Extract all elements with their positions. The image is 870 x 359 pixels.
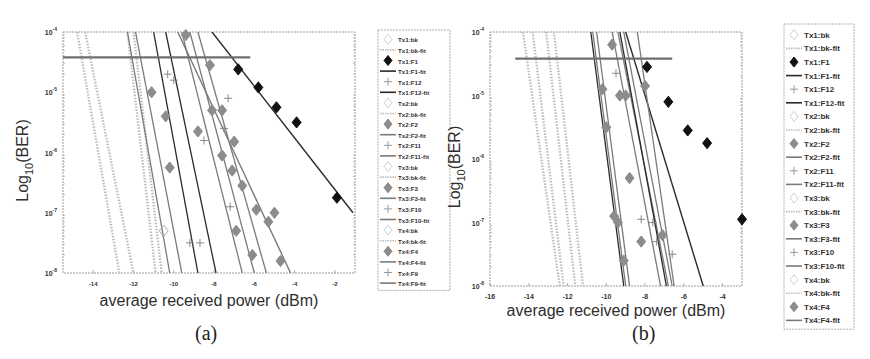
back-to-back-fit-line [533, 32, 564, 286]
legend-entry-label: Tx3:F3-fit [398, 195, 426, 202]
legend-entry-label: Tx3:F10 [398, 206, 422, 213]
series-layer [77, 32, 353, 273]
legend-entry-label: Tx1:bk-fit [398, 47, 426, 54]
caption-a: (a) [195, 322, 217, 345]
data-marker-gray-diamond [228, 165, 237, 176]
legend-entry-label: Tx3:F10 [804, 248, 835, 257]
legend-entry-label: Tx1:F12-fit [804, 99, 845, 108]
legend-entry-label: Tx3:F3 [398, 185, 419, 192]
data-marker-black-diamond [738, 214, 747, 225]
legend-entry-label: Tx2:F11 [804, 167, 834, 176]
plus-marker [224, 94, 232, 102]
data-marker-black-diamond [643, 61, 652, 72]
fit-line [593, 32, 626, 286]
back-to-back-fit-line [127, 32, 155, 273]
legend-entry-label: Tx2:bk [398, 100, 419, 107]
plus-marker [612, 69, 620, 77]
data-marker-gray-diamond [625, 172, 634, 183]
legend-entry-label: Tx1:F1-fit [398, 68, 426, 75]
data-marker-gray-diamond [248, 249, 257, 260]
y-axis-label: Log10(BER) [446, 126, 467, 209]
legend-entry-label: Tx2:bk [804, 112, 830, 121]
data-marker-gray-diamond [193, 126, 202, 137]
back-to-back-fit-line [523, 32, 560, 286]
y-tick-label: 10-7 [45, 207, 57, 217]
x-axis-label: average received power (dBm) [100, 292, 319, 309]
data-marker-black-diamond [664, 96, 673, 107]
plus-marker [637, 215, 645, 223]
x-tick-label: -8 [642, 293, 648, 300]
x-tick-label: -10 [169, 281, 178, 287]
x-tick-label: -14 [89, 281, 98, 287]
legend-entry-label: Tx4:F9 [398, 270, 419, 277]
legend-entry-label: Tx3:F3-fit [804, 235, 840, 244]
x-tick-label: -8 [211, 281, 217, 287]
data-marker-gray-diamond [181, 29, 190, 40]
data-marker-gray-diamond [165, 162, 174, 173]
plus-marker [164, 70, 172, 78]
legend-entry-label: Tx2:bk-fit [398, 111, 426, 118]
x-tick-label: -16 [485, 293, 495, 300]
back-to-back-fit-line [85, 32, 133, 273]
x-tick-label: -4 [292, 281, 298, 287]
legend-entry-label: Tx4:bk-fit [804, 289, 840, 298]
legend-entry-label: Tx3:bk [398, 164, 419, 171]
data-marker-gray-diamond [218, 150, 227, 161]
legend-entry-label: Tx3:bk [804, 194, 830, 203]
data-marker-gray-diamond [641, 80, 650, 91]
legend-entry-label: Tx4:F4-fit [398, 259, 426, 266]
legend-entry-label: Tx4:bk [398, 227, 419, 234]
x-tick-label: -4 [719, 293, 725, 300]
data-marker-gray-diamond [238, 180, 247, 191]
ber-chart-b: 10-410-510-610-710-8-16-14-12-10-8-6-4av… [430, 0, 870, 359]
legend-entry-label: Tx1:F1 [398, 58, 419, 65]
data-marker-black-diamond [332, 192, 341, 203]
fit-line [597, 32, 630, 286]
plus-marker [196, 239, 204, 247]
legend-entry-label: Tx2:bk-fit [804, 126, 840, 135]
legend-entry-label: Tx1:bk-fit [804, 44, 840, 53]
legend-entry-label: Tx2:F11 [398, 142, 422, 149]
legend-entry-label: Tx1:F1-fit [804, 72, 840, 81]
legend-entry-label: Tx3:bk-fit [804, 208, 840, 217]
legend-entry-label: Tx4:F4-fit [804, 316, 840, 325]
legend-entry-label: Tx4:F9-fit [398, 280, 426, 287]
data-marker-black-diamond [234, 64, 243, 75]
legend-entry-label: Tx2:F2 [804, 140, 830, 149]
legend: Tx1:bkTx1:bk-fitTx1:F1Tx1:F1-fitTx1:F12T… [784, 24, 854, 329]
legend-entry-label: Tx4:bk [804, 276, 830, 285]
legend-entry-label: Tx4:F4 [398, 248, 419, 255]
legend-entry-label: Tx1:bk [398, 36, 419, 43]
legend-entry-label: Tx2:F2-fit [398, 132, 426, 139]
legend-entry-label: Tx2:F2-fit [804, 153, 840, 162]
legend-entry-label: Tx1:bk [804, 31, 830, 40]
data-marker-black-diamond [292, 117, 301, 128]
ber-chart-a: 10-410-510-610-710-8-14-12-10-8-6-4-2ave… [0, 0, 460, 359]
y-tick-label: 10-6 [472, 153, 484, 163]
back-to-back-fit-line [546, 32, 575, 286]
y-tick-label: 10-5 [45, 86, 57, 96]
series-layer [523, 32, 703, 286]
y-tick-label: 10-8 [45, 267, 57, 277]
y-axis-label: Log10(BER) [14, 119, 35, 202]
legend-entry-label: Tx3:F10-fit [398, 217, 429, 224]
x-tick-label: -12 [129, 281, 138, 287]
data-marker-gray-diamond [637, 236, 646, 247]
back-to-back-fit-line [77, 32, 119, 273]
x-tick-label: -14 [524, 293, 534, 300]
fit-line [212, 32, 353, 213]
legend-entry-label: Tx2:F11-fit [804, 180, 844, 189]
y-tick-label: 10-4 [472, 26, 484, 36]
y-tick-label: 10-5 [472, 90, 484, 100]
legend-entry-label: Tx1:F12 [398, 79, 422, 86]
data-marker-black-diamond [703, 138, 712, 149]
x-tick-label: -2 [332, 281, 338, 287]
x-tick-label: -12 [562, 293, 572, 300]
x-tick-label: -6 [252, 281, 258, 287]
data-marker-black-diamond [254, 82, 263, 93]
legend-entry-label: Tx3:F10-fit [804, 262, 845, 271]
data-marker-gray-diamond [270, 207, 279, 218]
plus-marker [226, 203, 234, 211]
legend-entry-label: Tx4:bk-fit [398, 238, 426, 245]
y-tick-label: 10-4 [45, 26, 57, 36]
